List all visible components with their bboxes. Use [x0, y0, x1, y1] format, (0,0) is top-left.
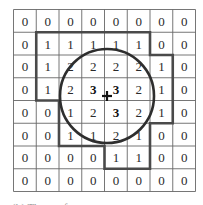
grid-cell-value: 0 [67, 150, 74, 165]
grid-cell-value: 0 [22, 14, 29, 29]
center-cross-icon [102, 91, 112, 101]
grid-cell-value: 0 [113, 14, 120, 29]
grid-cell-value: 0 [181, 82, 188, 97]
grid-cell-value: 1 [158, 105, 165, 120]
grid-cell-value: 3 [113, 82, 120, 97]
grid-cell-value: 0 [181, 128, 188, 143]
grid-cell-value: 0 [44, 14, 51, 29]
grid-cell-value: 0 [67, 14, 74, 29]
grid-cell-value: 0 [22, 59, 29, 74]
grid-cell-value: 2 [67, 82, 74, 97]
grid-cell-value: 1 [135, 150, 142, 165]
grid-cell-value: 0 [22, 150, 29, 165]
grid-cell-value: 0 [181, 14, 188, 29]
grid-cell-value: 0 [135, 14, 142, 29]
grid-cell-value: 0 [44, 105, 51, 120]
grid-cell-value: 3 [90, 82, 97, 97]
grid-cell-value: 0 [22, 173, 29, 188]
grid-diagram: 0000000001111100012222100123321000123210… [0, 0, 203, 205]
grid-cell-value: 0 [22, 37, 29, 52]
grid-cell-value: 0 [90, 150, 97, 165]
grid-cell-value: 0 [181, 105, 188, 120]
grid-cell-value: 0 [181, 37, 188, 52]
grid-cell-value: 2 [90, 59, 97, 74]
grid-cell-value: 0 [158, 14, 165, 29]
grid-cell-value: 0 [158, 150, 165, 165]
grid-cell-value: 1 [113, 150, 120, 165]
grid-cell-value: 0 [135, 173, 142, 188]
grid-cell-value: 1 [44, 82, 51, 97]
grid-cell-value: 0 [181, 150, 188, 165]
grid-cell-value: 1 [67, 105, 74, 120]
grid-cell-value: 3 [113, 105, 120, 120]
grid-cell-value: 2 [90, 105, 97, 120]
grid-cell-value: 1 [44, 59, 51, 74]
grid-cell-value: 0 [44, 128, 51, 143]
grid-cell-value: 1 [135, 37, 142, 52]
grid-cell-value: 0 [181, 173, 188, 188]
grid-cell-value: 0 [44, 150, 51, 165]
grid-cell-value: 0 [158, 128, 165, 143]
grid-cell-value: 0 [90, 173, 97, 188]
grid-cell-value: 1 [44, 37, 51, 52]
grid-cell-value: 0 [158, 37, 165, 52]
grid-cell-value: 0 [67, 173, 74, 188]
grid-cell-value: 0 [90, 14, 97, 29]
grid-cell-value: 0 [181, 59, 188, 74]
grid-cell-value: 0 [22, 128, 29, 143]
grid-cell-value: 0 [158, 173, 165, 188]
grid-cell-value: 2 [135, 105, 142, 120]
figure-caption: (b) The ... of ... [12, 201, 79, 205]
grid-cell-value: 1 [67, 37, 74, 52]
grid-cell-value: 0 [113, 173, 120, 188]
grid-cell-value: 0 [44, 173, 51, 188]
grid-cell-value: 1 [158, 82, 165, 97]
grid-cell-value: 2 [135, 82, 142, 97]
grid-cell-value: 0 [22, 82, 29, 97]
grid-cell-value: 0 [22, 105, 29, 120]
grid-cell-value: 1 [158, 59, 165, 74]
grid-cell-value: 2 [113, 59, 120, 74]
